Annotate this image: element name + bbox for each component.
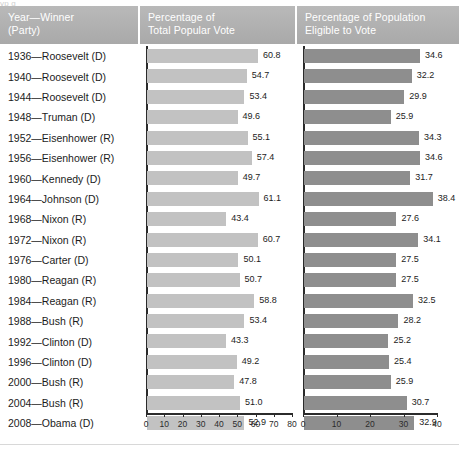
bar-value-label: 50.1 [239, 254, 261, 264]
bar-row: 25.9 [303, 372, 437, 392]
bar [147, 131, 248, 145]
bar-row: 55.1 [146, 128, 292, 148]
bar [304, 49, 420, 63]
bar-value-label: 25.2 [389, 335, 411, 345]
chart-panel-popular-vote: 60.854.753.449.655.157.449.761.143.460.7… [146, 46, 292, 433]
bar-row: 25.9 [303, 107, 437, 127]
category-label: 1944—Roosevelt (D) [0, 87, 138, 107]
bar-value-label: 34.6 [421, 152, 443, 162]
x-axis-tick [437, 413, 438, 417]
bar-row: 47.8 [146, 372, 292, 392]
category-label: 1964—Johnson (D) [0, 189, 138, 209]
bar-row: 34.3 [303, 128, 437, 148]
category-label: 1960—Kennedy (D) [0, 168, 138, 188]
bar-value-label: 30.7 [408, 397, 430, 407]
bar-row: 57.4 [146, 148, 292, 168]
bar [304, 294, 413, 308]
header-col2-line1: Percentage of [148, 11, 295, 24]
bar-row: 32.5 [303, 291, 437, 311]
bar-value-label: 60.7 [259, 234, 281, 244]
category-label: 1936—Roosevelt (D) [0, 46, 138, 66]
bar-value-label: 53.4 [245, 91, 267, 101]
bar-row: 29.9 [303, 87, 437, 107]
bar-row: 61.1 [146, 189, 292, 209]
bottom-divider [0, 444, 459, 445]
bar-row: 58.8 [146, 291, 292, 311]
bar [304, 131, 419, 145]
bar-value-label: 51.0 [241, 397, 263, 407]
header-col3-text: Percentage of Population Eligible to Vot… [297, 6, 459, 37]
bar [304, 151, 420, 165]
bar [147, 69, 247, 83]
bar-row: 34.6 [303, 46, 437, 66]
bar [304, 396, 407, 410]
category-label: 2004—Bush (R) [0, 393, 138, 413]
bar-value-label: 32.2 [413, 70, 435, 80]
x-axis-tick-label: 20 [178, 419, 187, 429]
header-col2-text: Percentage of Total Popular Vote [140, 6, 295, 37]
header-col1-line2: (Party) [8, 24, 138, 37]
x-axis-tick-label: 50 [233, 419, 242, 429]
bar-value-label: 34.1 [419, 234, 441, 244]
bar-row: 53.4 [146, 311, 292, 331]
x-axis-tick [274, 413, 275, 417]
x-axis-tick [164, 413, 165, 417]
bar [147, 90, 244, 104]
bar [304, 90, 404, 104]
bar [147, 294, 254, 308]
bar [147, 192, 259, 206]
bar [147, 49, 258, 63]
x-axis-tick [404, 413, 405, 417]
bar-row: 38.4 [303, 189, 437, 209]
x-axis-tick-label: 40 [214, 419, 223, 429]
bar-value-label: 31.7 [411, 172, 433, 182]
x-axis-tick [337, 413, 338, 417]
category-label-column: 1936—Roosevelt (D)1940—Roosevelt (D)1944… [0, 46, 138, 433]
bar-row: 25.4 [303, 352, 437, 372]
bar-row: 27.5 [303, 270, 437, 290]
bar-row: 30.7 [303, 393, 437, 413]
header-col1-line1: Year—Winner [8, 11, 138, 24]
bar-row: 43.3 [146, 331, 292, 351]
bar-row: 50.7 [146, 270, 292, 290]
bar [304, 355, 389, 369]
x-axis-tick [146, 413, 147, 417]
bar [304, 192, 433, 206]
bar-value-label: 32.5 [414, 295, 436, 305]
bar-value-label: 47.8 [235, 376, 257, 386]
bar-row: 43.4 [146, 209, 292, 229]
bar-value-label: 58.8 [255, 295, 277, 305]
x-axis-tick [237, 413, 238, 417]
bar-value-label: 27.5 [397, 274, 419, 284]
header-col1-text: Year—Winner (Party) [0, 6, 138, 37]
category-label: 1984—Reagan (R) [0, 291, 138, 311]
bar-row: 60.7 [146, 230, 292, 250]
bar-value-label: 49.7 [239, 172, 261, 182]
bar-value-label: 60.8 [259, 50, 281, 60]
bar-value-label: 34.3 [420, 132, 442, 142]
bar [147, 212, 226, 226]
bar [304, 375, 391, 389]
bar-value-label: 29.9 [405, 91, 427, 101]
x-axis-tick-label: 20 [365, 419, 374, 429]
bar [147, 110, 238, 124]
category-label: 1956—Eisenhower (R) [0, 148, 138, 168]
category-label: 1968—Nixon (R) [0, 209, 138, 229]
header-col3-line1: Percentage of Population [305, 11, 459, 24]
bar-row: 49.6 [146, 107, 292, 127]
bar-value-label: 25.9 [392, 111, 414, 121]
bar-row: 50.1 [146, 250, 292, 270]
bar [147, 253, 238, 267]
bar [304, 314, 398, 328]
bar-row: 31.7 [303, 168, 437, 188]
bar-value-label: 61.1 [260, 193, 282, 203]
category-label: 1980—Reagan (R) [0, 270, 138, 290]
x-axis-tick-label: 40 [432, 419, 441, 429]
bar-value-label: 28.2 [399, 315, 421, 325]
x-axis-tick-label: 0 [144, 419, 149, 429]
bar [147, 355, 237, 369]
bar-value-label: 49.2 [238, 356, 260, 366]
bar [304, 273, 396, 287]
bar-value-label: 53.4 [245, 315, 267, 325]
bar [304, 334, 388, 348]
